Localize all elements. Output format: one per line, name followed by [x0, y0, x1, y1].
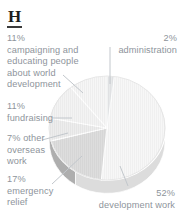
callout-other-overseas-work: 7% other overseas work	[7, 133, 67, 168]
callout-development-work: 52% development work	[72, 188, 175, 211]
callout-emergency-relief: 17% emergency relief	[7, 174, 67, 209]
callout-administration: 2% administration	[92, 33, 177, 56]
callout-campaigning: 11% campaigning and educating people abo…	[7, 33, 85, 91]
callout-fundraising: 11% fundraising	[7, 101, 77, 124]
figure-pie-chart: H	[0, 0, 179, 218]
